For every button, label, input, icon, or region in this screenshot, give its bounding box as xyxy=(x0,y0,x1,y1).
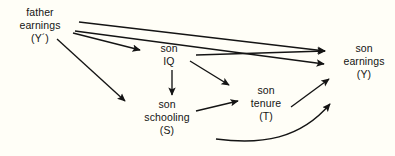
node-son-earnings-symbol: (Y) xyxy=(334,68,394,81)
node-son-iq-line-2: IQ xyxy=(143,55,195,68)
node-son-tenure-line-1: son xyxy=(235,84,297,97)
edge-father-earnings-to-son-schooling xyxy=(57,39,125,101)
node-father-earnings: father earnings (Y´) xyxy=(6,6,74,45)
edge-son-iq-to-son-tenure xyxy=(190,61,229,85)
node-son-iq: son IQ xyxy=(143,42,195,68)
node-father-earnings-symbol: (Y´) xyxy=(6,32,74,45)
node-son-earnings: son earnings (Y) xyxy=(334,42,394,81)
node-son-tenure: son tenure (T) xyxy=(235,84,297,123)
node-son-schooling-symbol: (S) xyxy=(124,124,210,137)
node-son-tenure-symbol: (T) xyxy=(235,110,297,123)
node-son-earnings-line-2: earnings xyxy=(334,55,394,68)
path-diagram: father earnings (Y´) son IQ son schoolin… xyxy=(0,0,395,156)
node-son-earnings-line-1: son xyxy=(334,42,394,55)
node-son-schooling-line-2: schooling xyxy=(124,111,210,124)
node-son-schooling-line-1: son xyxy=(124,98,210,111)
node-father-earnings-line-1: father xyxy=(6,6,74,19)
edge-son-iq-to-son-earnings xyxy=(196,51,325,55)
node-son-schooling: son schooling (S) xyxy=(124,98,210,137)
node-son-iq-line-1: son xyxy=(143,42,195,55)
node-son-tenure-line-2: tenure xyxy=(235,97,297,110)
node-father-earnings-line-2: earnings xyxy=(6,19,74,32)
